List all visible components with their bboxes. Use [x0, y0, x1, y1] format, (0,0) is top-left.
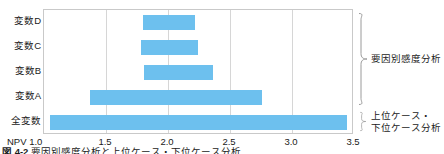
annotation-case-analysis: 上位ケース・ 下位ケース分析: [371, 110, 441, 134]
sensitivity-tornado-figure: 変数D 変数C 変数B 変数A 全変数 NPV 1.01.52.02.53.03…: [0, 0, 444, 154]
bar-4: [50, 115, 346, 130]
category-label-3: 変数A: [0, 90, 41, 101]
category-label-2: 変数B: [0, 65, 41, 76]
bar-2: [144, 65, 212, 80]
brace-factor-sensitivity: [357, 11, 369, 107]
figure-caption: 図 4-2 要因別感度分析と上位ケース・下位ケース分析: [2, 146, 442, 154]
bar-1: [141, 40, 198, 55]
brace-case-analysis: [357, 111, 369, 132]
annotation-factor-sensitivity: 要因別感度分析: [371, 53, 441, 65]
bar-3: [90, 90, 262, 105]
caption-body: 要因別感度分析と上位ケース・下位ケース分析: [31, 146, 241, 154]
bar-0: [143, 15, 195, 30]
category-label-4: 全変数: [0, 115, 41, 126]
category-label-1: 変数C: [0, 40, 41, 51]
caption-number: 図 4-2: [2, 146, 28, 154]
category-label-0: 変数D: [0, 15, 41, 26]
plot-area: [43, 9, 353, 134]
